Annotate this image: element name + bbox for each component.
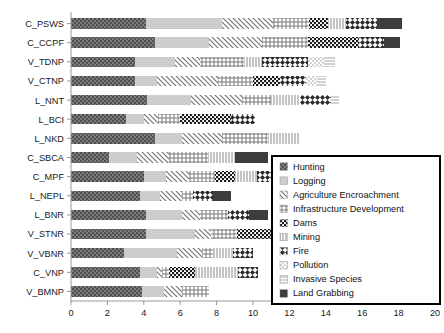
bar-segment[interactable] xyxy=(249,210,267,221)
bar-row[interactable] xyxy=(71,248,253,258)
legend-item[interactable]: Mining xyxy=(280,232,320,242)
bar-segment[interactable] xyxy=(182,286,209,297)
bar-segment[interactable] xyxy=(71,37,155,48)
bar-segment[interactable] xyxy=(346,18,377,29)
bar-segment[interactable] xyxy=(71,248,124,258)
bar-segment[interactable] xyxy=(71,95,147,106)
bar-segment[interactable] xyxy=(308,37,359,48)
bar-segment[interactable] xyxy=(71,18,146,29)
bar-segment[interactable] xyxy=(135,76,157,87)
bar-segment[interactable] xyxy=(157,76,219,87)
bar-segment[interactable] xyxy=(180,114,231,125)
bar-segment[interactable] xyxy=(306,76,317,87)
bar-segment[interactable] xyxy=(162,267,169,278)
bar-segment[interactable] xyxy=(160,191,182,202)
bar-segment[interactable] xyxy=(189,171,214,182)
bar-segment[interactable] xyxy=(235,152,268,163)
bar-segment[interactable] xyxy=(126,114,144,125)
bar-segment[interactable] xyxy=(228,210,250,221)
bar-segment[interactable] xyxy=(155,133,182,144)
bar-row[interactable] xyxy=(71,76,326,87)
bar-segment[interactable] xyxy=(71,229,146,240)
bar-row[interactable] xyxy=(71,267,258,278)
bar-segment[interactable] xyxy=(158,114,180,125)
bar-segment[interactable] xyxy=(218,76,253,87)
bar-segment[interactable] xyxy=(300,95,331,106)
bar-segment[interactable] xyxy=(175,57,200,68)
bar-row[interactable] xyxy=(71,18,402,29)
bar-segment[interactable] xyxy=(144,114,159,125)
bar-segment[interactable] xyxy=(164,286,182,297)
bar-segment[interactable] xyxy=(209,37,262,48)
bar-segment[interactable] xyxy=(213,191,231,202)
bar-segment[interactable] xyxy=(328,18,346,29)
bar-segment[interactable] xyxy=(195,267,239,278)
bar-segment[interactable] xyxy=(317,76,326,87)
bar-segment[interactable] xyxy=(262,37,308,48)
bar-segment[interactable] xyxy=(146,210,182,221)
bar-segment[interactable] xyxy=(202,248,213,258)
bar-segment[interactable] xyxy=(71,133,155,144)
bar-segment[interactable] xyxy=(208,152,235,163)
bar-segment[interactable] xyxy=(195,229,211,240)
bar-segment[interactable] xyxy=(146,229,195,240)
bar-segment[interactable] xyxy=(253,76,280,87)
bar-segment[interactable] xyxy=(222,18,273,29)
bar-segment[interactable] xyxy=(124,248,177,258)
bar-segment[interactable] xyxy=(71,210,146,221)
bar-segment[interactable] xyxy=(71,286,142,297)
bar-segment[interactable] xyxy=(109,152,136,163)
bar-segment[interactable] xyxy=(309,18,327,29)
bar-segment[interactable] xyxy=(166,171,190,182)
bar-segment[interactable] xyxy=(182,210,200,221)
bar-segment[interactable] xyxy=(331,95,338,106)
bar-segment[interactable] xyxy=(71,57,135,68)
bar-row[interactable] xyxy=(71,152,268,163)
bar-row[interactable] xyxy=(71,133,299,144)
legend-item[interactable]: Agriculture Encroachment xyxy=(280,190,399,200)
bar-segment[interactable] xyxy=(237,229,275,240)
bar-segment[interactable] xyxy=(233,248,253,258)
bar-segment[interactable] xyxy=(169,152,207,163)
legend-item[interactable]: Pollution xyxy=(280,260,328,270)
bar-segment[interactable] xyxy=(140,267,156,278)
bar-segment[interactable] xyxy=(182,191,193,202)
bar-segment[interactable] xyxy=(157,267,162,278)
bar-row[interactable] xyxy=(71,95,339,106)
bar-segment[interactable] xyxy=(71,267,140,278)
bar-segment[interactable] xyxy=(384,37,400,48)
legend-item[interactable]: Fire xyxy=(280,246,309,256)
bar-segment[interactable] xyxy=(273,18,309,29)
bar-segment[interactable] xyxy=(244,57,262,68)
bar-segment[interactable] xyxy=(359,37,384,48)
bar-segment[interactable] xyxy=(308,57,324,68)
bar-segment[interactable] xyxy=(280,76,305,87)
legend-item[interactable]: Logging xyxy=(280,176,326,186)
bar-segment[interactable] xyxy=(71,76,135,87)
bar-segment[interactable] xyxy=(137,152,170,163)
bar-segment[interactable] xyxy=(235,171,257,182)
bar-segment[interactable] xyxy=(193,191,213,202)
bar-segment[interactable] xyxy=(142,286,164,297)
bar-row[interactable] xyxy=(71,171,293,182)
bar-segment[interactable] xyxy=(271,95,300,106)
bar-segment[interactable] xyxy=(135,57,175,68)
bar-row[interactable] xyxy=(71,57,335,68)
bar-segment[interactable] xyxy=(182,133,222,144)
bar-row[interactable] xyxy=(71,210,268,221)
chart-legend[interactable]: HuntingLoggingAgriculture EncroachmentIn… xyxy=(272,156,440,304)
bar-segment[interactable] xyxy=(155,37,210,48)
bar-segment[interactable] xyxy=(213,248,233,258)
bar-segment[interactable] xyxy=(177,248,202,258)
bar-segment[interactable] xyxy=(200,210,227,221)
bar-segment[interactable] xyxy=(222,133,268,144)
bar-segment[interactable] xyxy=(200,57,244,68)
bar-segment[interactable] xyxy=(71,191,140,202)
bar-segment[interactable] xyxy=(268,133,299,144)
legend-item[interactable]: Dams xyxy=(280,218,317,228)
bar-segment[interactable] xyxy=(238,267,258,278)
bar-segment[interactable] xyxy=(71,171,144,182)
bar-segment[interactable] xyxy=(215,171,235,182)
bar-segment[interactable] xyxy=(324,57,335,68)
bar-segment[interactable] xyxy=(140,191,160,202)
